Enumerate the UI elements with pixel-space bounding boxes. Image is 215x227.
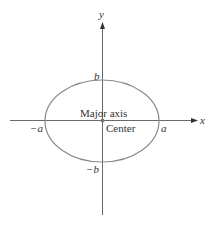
x-axis-label: x [199,114,205,126]
neg-a-intercept-label: −a [30,122,43,134]
neg-b-intercept-label: −b [86,163,99,175]
y-axis-arrow-icon [100,22,105,29]
y-axis-label: y [98,8,104,20]
x-axis-arrow-icon [191,118,198,123]
a-intercept-label: a [161,122,167,134]
center-label: Center [106,122,136,134]
major-axis-label: Major axis [80,107,127,119]
center-point [101,119,105,123]
ellipse-diagram: y x b −b −a a Major axis Center [0,0,215,227]
b-intercept-label: b [94,70,100,82]
